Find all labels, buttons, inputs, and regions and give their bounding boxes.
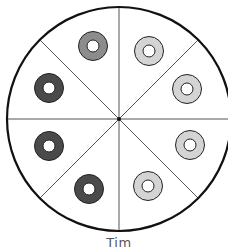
donut-icon-light <box>176 131 205 160</box>
circle-label: Tim <box>0 235 228 250</box>
center-dot <box>117 117 121 121</box>
donut-icon-medium <box>79 32 108 61</box>
donut-icon-dark <box>35 74 64 103</box>
donut-icon-dark <box>35 132 64 161</box>
donut-icon-light <box>173 75 202 104</box>
donut-icon-dark <box>75 175 104 204</box>
fraction-circle-diagram <box>0 0 228 251</box>
donut-icon-light <box>135 37 164 66</box>
donut-icon-light <box>134 172 163 201</box>
